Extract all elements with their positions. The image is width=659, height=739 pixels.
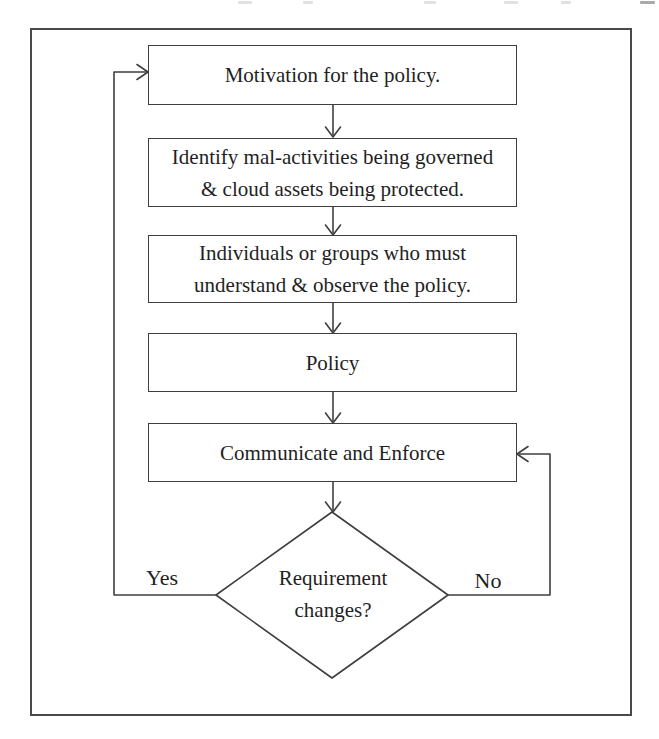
node-policy: Policy <box>148 333 517 392</box>
arrow-communicate-to-decision <box>326 482 341 512</box>
arrow-policy-to-communicate <box>326 392 341 423</box>
no-branch-label: No <box>473 568 504 594</box>
node-communicate: Communicate and Enforce <box>148 423 517 482</box>
node-identify-text-line2: & cloud assets being protected. <box>201 173 464 205</box>
node-motivation: Motivation for the policy. <box>148 45 517 105</box>
node-individuals-text-line2: understand & observe the policy. <box>194 269 471 301</box>
node-identify-text-line1: Identify mal-activities being governed <box>172 141 493 173</box>
node-individuals: Individuals or groups who must understan… <box>148 235 517 303</box>
node-identify: Identify mal-activities being governed &… <box>148 138 517 207</box>
node-motivation-text: Motivation for the policy. <box>225 59 441 91</box>
node-decision-text-line1: Requirement <box>238 562 428 594</box>
node-policy-text: Policy <box>306 347 360 379</box>
arrow-individuals-to-policy <box>326 303 341 333</box>
node-decision-text-line2: changes? <box>238 594 428 626</box>
node-decision-text: Requirement changes? <box>238 562 428 626</box>
flowchart-page: Motivation for the policy. Identify mal-… <box>0 0 659 739</box>
arrow-motivation-to-identify <box>326 105 341 137</box>
node-communicate-text: Communicate and Enforce <box>220 437 445 469</box>
yes-branch-label: Yes <box>144 565 180 591</box>
arrow-identify-to-individuals <box>326 207 341 235</box>
node-individuals-text-line1: Individuals or groups who must <box>199 237 466 269</box>
